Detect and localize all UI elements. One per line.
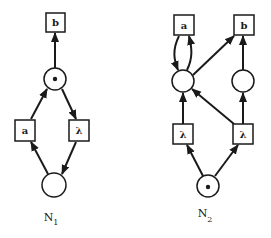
transition-lambda-right: λ (233, 124, 253, 144)
transition-label: a (181, 20, 188, 31)
net-n1: b a λ N1 (15, 13, 89, 227)
net-name: N2 (198, 207, 213, 224)
transition-label: a (22, 125, 29, 136)
transition-label: b (241, 20, 248, 31)
place-right (232, 70, 254, 92)
transition-label: b (52, 17, 59, 28)
transition-lambda: λ (69, 120, 89, 141)
arc-pbottom-to-lambdaleft (187, 145, 203, 176)
transition-lambda-left: λ (173, 124, 193, 144)
net-n2: a b λ λ N2 (172, 15, 254, 224)
transition-a: a (174, 15, 194, 35)
petri-net-diagram: b a λ N1 (0, 0, 271, 238)
arc-pleft-to-a (187, 36, 191, 70)
arc-lambdaright-to-pleft (192, 89, 234, 124)
place-left (172, 70, 194, 92)
arc-pbottom-to-lambdaright (215, 145, 238, 176)
arc-ptop-to-lambda (62, 89, 76, 119)
arc-lambda-to-pbottom (62, 142, 76, 174)
arc-a-to-ptop (31, 89, 47, 119)
transition-a: a (15, 120, 35, 141)
transition-b: b (46, 13, 65, 32)
transition-label: λ (75, 125, 82, 136)
place-top (44, 68, 66, 90)
place-bottom (42, 173, 66, 197)
net-name: N1 (44, 211, 59, 227)
transition-label: λ (179, 129, 186, 140)
arc-a-to-pleft (174, 36, 179, 70)
transition-label: λ (239, 129, 246, 140)
token-icon (53, 77, 57, 81)
place-bottom (197, 175, 219, 197)
arc-pleft-to-b (193, 36, 234, 75)
transition-b: b (234, 15, 254, 35)
arc-pbottom-to-a (31, 142, 48, 174)
token-icon (206, 185, 210, 189)
